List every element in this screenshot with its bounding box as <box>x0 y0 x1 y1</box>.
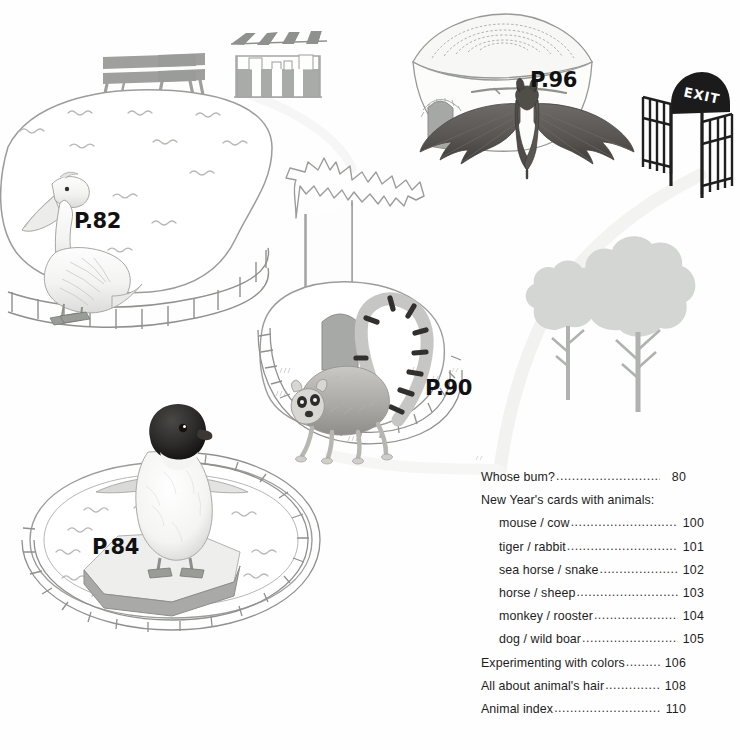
toc-entry[interactable]: New Year's cards with animals: .........… <box>481 489 686 512</box>
toc-leader-dots: ........................................… <box>582 627 678 650</box>
toc-entry-title: All about animal's hair <box>481 675 604 698</box>
toc-leader-dots: ........................................… <box>554 697 660 720</box>
toc-entry-page: 102 <box>680 559 704 582</box>
toc-leader-dots: ........................................… <box>594 604 678 627</box>
toc-leader-dots: ........................................… <box>605 674 660 697</box>
map-label-bat[interactable]: P.96 <box>530 70 577 91</box>
toc-entry-page: 80 <box>662 466 686 489</box>
toc-leader-dots: ........................................… <box>567 535 678 558</box>
kiosk-stall <box>231 30 330 97</box>
toc-entry[interactable]: mouse / cow ............................… <box>481 512 704 535</box>
toc-entry-title: Whose bum? <box>481 466 555 489</box>
tree-large <box>576 236 695 412</box>
toc-entry[interactable]: All about animal's hair ................… <box>481 675 686 698</box>
table-of-contents: Whose bum? .............................… <box>481 466 686 721</box>
toc-leader-dots: ........................................… <box>626 651 660 674</box>
toc-entry-page: 105 <box>680 628 704 651</box>
toc-entry[interactable]: Animal index ...........................… <box>481 698 686 721</box>
toc-entry[interactable]: sea horse / snake ......................… <box>481 559 704 582</box>
zoo-map-page: EXIT <box>0 0 740 750</box>
toc-entry-title: mouse / cow <box>499 512 570 535</box>
toc-entry-page: 104 <box>680 605 704 628</box>
map-label-penguin[interactable]: P.84 <box>92 537 139 558</box>
toc-entry-page: 110 <box>662 698 686 721</box>
pelican-pond <box>1 90 272 293</box>
toc-entry[interactable]: tiger / rabbit .........................… <box>481 536 704 559</box>
toc-leader-dots: ........................................… <box>556 465 660 488</box>
toc-entry-page: 106 <box>662 652 686 675</box>
toc-entry-title: dog / wild boar <box>499 628 581 651</box>
toc-entry-title: New Year's cards with animals: <box>481 489 654 512</box>
toc-entry[interactable]: monkey / rooster .......................… <box>481 605 704 628</box>
toc-entry[interactable]: Whose bum? .............................… <box>481 466 686 489</box>
toc-entry[interactable]: horse / sheep ..........................… <box>481 582 704 605</box>
gate-panel-right <box>702 114 732 194</box>
map-label-lemur[interactable]: P.90 <box>425 378 472 399</box>
toc-leader-dots: ........................................… <box>576 581 678 604</box>
toc-entry[interactable]: dog / wild boar ........................… <box>481 628 704 651</box>
kiosk-awning <box>231 30 330 45</box>
toc-entry-title: tiger / rabbit <box>499 536 566 559</box>
toc-entry-title: sea horse / snake <box>499 559 599 582</box>
toc-entry-page: 103 <box>680 582 704 605</box>
toc-entry-title: Animal index <box>481 698 553 721</box>
map-label-pelican[interactable]: P.82 <box>74 211 121 232</box>
toc-entry-page: 100 <box>680 512 704 535</box>
toc-entry[interactable]: Experimenting with colors ..............… <box>481 652 686 675</box>
toc-leader-dots: ........................................… <box>600 558 678 581</box>
toc-entry-page: 101 <box>680 536 704 559</box>
gate-panel-left <box>643 97 671 174</box>
toc-entry-page: 108 <box>662 675 686 698</box>
toc-entry-title: Experimenting with colors <box>481 652 625 675</box>
toc-leader-dots: ........................................… <box>571 511 678 534</box>
toc-entry-title: horse / sheep <box>499 582 575 605</box>
toc-entry-title: monkey / rooster <box>499 605 593 628</box>
